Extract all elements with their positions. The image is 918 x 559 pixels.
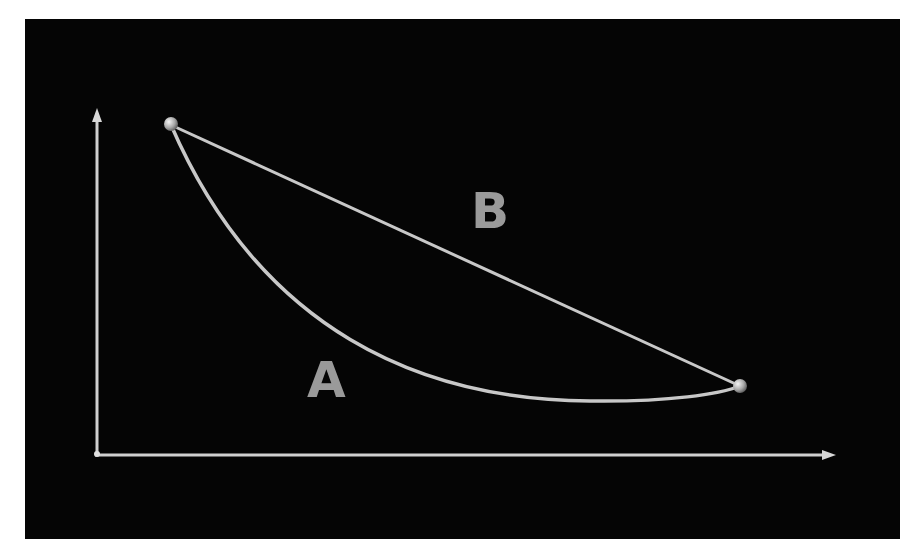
label-b: B [471, 186, 509, 236]
path-b-straight-line [171, 125, 740, 386]
y-axis-arrow-icon [92, 108, 102, 122]
label-a: A [307, 355, 346, 405]
x-axis-arrow-icon [822, 450, 836, 460]
path-a-curve [171, 125, 740, 401]
origin-point [94, 451, 100, 457]
diagram-svg [0, 0, 918, 559]
y-axis [92, 108, 102, 455]
end-point-sphere [733, 379, 747, 393]
start-point-sphere [164, 117, 178, 131]
x-axis [95, 450, 836, 460]
